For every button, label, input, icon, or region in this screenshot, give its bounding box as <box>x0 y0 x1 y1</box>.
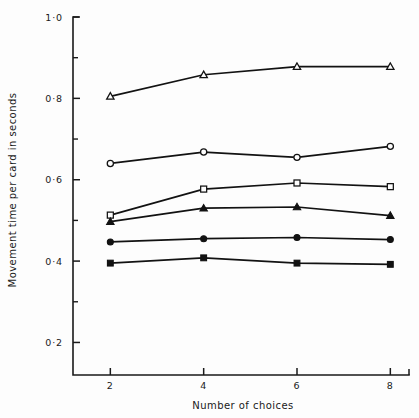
x-tick-label: 8 <box>387 380 394 391</box>
x-tick-label: 4 <box>200 380 207 391</box>
marker-open-circle <box>201 149 207 155</box>
series-polyline <box>110 238 390 242</box>
y-tick-label: 0·8 <box>45 93 63 104</box>
marker-filled-square <box>201 255 207 261</box>
chart-figure: 1·00·80·60·40·22468 Number of choices Mo… <box>0 0 419 418</box>
y-tick-label: 0·2 <box>45 337 63 348</box>
x-tick-label: 6 <box>294 380 301 391</box>
series-polyline <box>110 207 390 222</box>
series-filled-triangle <box>107 203 394 224</box>
marker-filled-square <box>387 261 393 267</box>
marker-open-circle <box>107 160 113 166</box>
marker-open-circle <box>387 143 393 149</box>
series-filled-square <box>107 255 393 267</box>
series-filled-circle <box>107 234 393 244</box>
series-polyline <box>110 146 390 163</box>
series-open-triangle <box>107 63 394 99</box>
axis-tick-labels: 1·00·80·60·40·22468 <box>45 12 394 391</box>
y-axis-title: Movement time per card in seconds <box>7 93 18 288</box>
data-series-group <box>107 63 394 267</box>
marker-open-circle <box>294 154 300 160</box>
chart-canvas: 1·00·80·60·40·22468 Number of choices Mo… <box>0 0 419 418</box>
series-polyline <box>110 258 390 265</box>
marker-filled-square <box>294 260 300 266</box>
marker-filled-circle <box>107 239 113 245</box>
marker-filled-circle <box>387 237 393 243</box>
marker-open-square <box>201 186 207 192</box>
y-tick-label: 0·6 <box>45 174 63 185</box>
series-polyline <box>110 183 390 215</box>
y-tick-label: 1·0 <box>45 12 63 23</box>
y-tick-label: 0·4 <box>45 256 63 267</box>
axis-ticks <box>73 17 390 375</box>
marker-filled-square <box>107 260 113 266</box>
x-tick-label: 2 <box>107 380 114 391</box>
marker-open-square <box>387 184 393 190</box>
marker-filled-circle <box>294 234 300 240</box>
series-polyline <box>110 67 390 97</box>
marker-open-square <box>294 180 300 186</box>
series-open-circle <box>107 143 393 166</box>
marker-filled-circle <box>201 236 207 242</box>
x-axis-title: Number of choices <box>192 400 293 411</box>
